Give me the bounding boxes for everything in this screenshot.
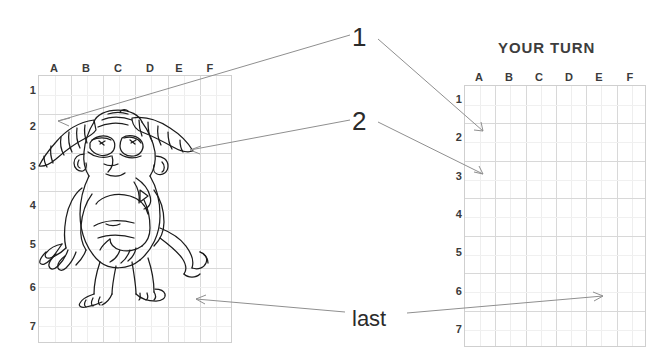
left-grid-col-label-d: D xyxy=(143,62,157,74)
grid-subline xyxy=(465,217,645,218)
grid-row-divider xyxy=(465,161,645,162)
right-grid-col-label-b: B xyxy=(502,71,516,83)
grid-subline xyxy=(480,86,481,346)
grid-subline xyxy=(465,180,645,181)
grid-row-divider xyxy=(465,311,645,312)
grid-subline xyxy=(541,86,542,346)
right-grid-col-label-c: C xyxy=(532,71,546,83)
left-grid-row-label-6: 6 xyxy=(24,281,36,293)
left-grid-col-label-c: C xyxy=(111,62,125,74)
right-grid-col-label-a: A xyxy=(472,71,486,83)
grid-subline xyxy=(465,255,645,256)
right-grid-row-label-3: 3 xyxy=(450,170,462,182)
right-grid-row-label-1: 1 xyxy=(450,93,462,105)
right-grid-row-label-2: 2 xyxy=(450,131,462,143)
grid-subline xyxy=(601,86,602,346)
right-grid-col-label-f: F xyxy=(623,71,637,83)
right-grid-col-label-d: D xyxy=(562,71,576,83)
left-grid-row-label-3: 3 xyxy=(24,160,36,172)
left-grid-row-label-1: 1 xyxy=(24,84,36,96)
grid-column-divider xyxy=(617,86,618,346)
grid-row-divider xyxy=(465,236,645,237)
grid-column-divider xyxy=(495,86,496,346)
grid-column-divider xyxy=(586,86,587,346)
grid-subline xyxy=(632,86,633,346)
left-grid-col-label-b: B xyxy=(79,62,93,74)
right-grid-row-label-7: 7 xyxy=(450,323,462,335)
left-grid-col-label-e: E xyxy=(172,62,186,74)
callout-label-1: 1 xyxy=(352,24,366,50)
grid-subline xyxy=(571,86,572,346)
right-grid-row-label-5: 5 xyxy=(450,246,462,258)
grid-subline xyxy=(465,330,645,331)
practice-grid xyxy=(464,85,646,347)
left-grid-row-label-7: 7 xyxy=(24,320,36,332)
callout-label-2: 2 xyxy=(352,108,366,134)
grid-row-divider xyxy=(465,123,645,124)
worksheet-page: A B C D E F 1 2 3 4 5 6 7 xyxy=(0,0,671,363)
grid-column-divider xyxy=(526,86,527,346)
grid-column-divider xyxy=(556,86,557,346)
grid-subline xyxy=(39,326,231,327)
left-grid-col-label-f: F xyxy=(203,62,217,74)
right-grid-col-label-e: E xyxy=(592,71,606,83)
grid-row-divider xyxy=(465,273,645,274)
grid-subline xyxy=(39,95,231,96)
grid-subline xyxy=(465,142,645,143)
monster-line-drawing xyxy=(36,108,226,308)
left-grid-row-label-4: 4 xyxy=(24,199,36,211)
grid-subline xyxy=(510,86,511,346)
grid-subline xyxy=(465,105,645,106)
left-grid-col-label-a: A xyxy=(47,62,61,74)
page-title: YOUR TURN xyxy=(498,39,595,56)
left-grid-row-label-5: 5 xyxy=(24,238,36,250)
grid-subline xyxy=(465,292,645,293)
callout-label-last: last xyxy=(352,306,386,332)
right-grid-row-label-4: 4 xyxy=(450,208,462,220)
right-grid-row-label-6: 6 xyxy=(450,285,462,297)
left-grid-row-label-2: 2 xyxy=(24,120,36,132)
grid-row-divider xyxy=(465,198,645,199)
